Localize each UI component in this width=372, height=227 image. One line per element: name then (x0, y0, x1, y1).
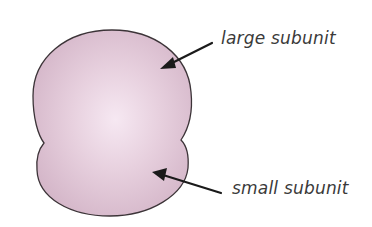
label-large-subunit: large subunit (221, 28, 336, 48)
ribosome-diagram: large subunit small subunit (0, 0, 372, 227)
label-small-subunit: small subunit (232, 178, 349, 198)
ribosome-body (33, 30, 192, 216)
